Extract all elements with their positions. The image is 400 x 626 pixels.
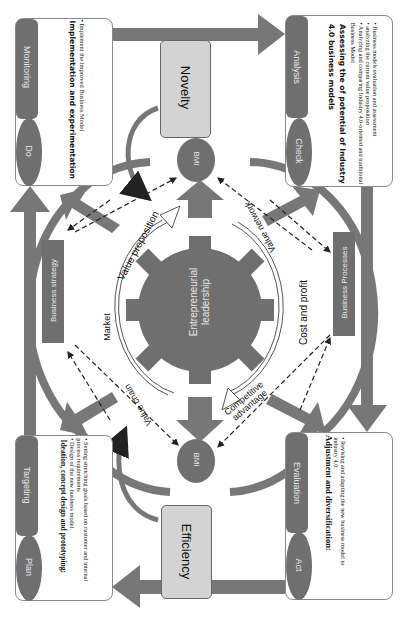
bmi-pdca-diagram: Monitoring Do Implementation and experim… — [0, 0, 400, 626]
analysis-label: Analysis — [292, 27, 302, 107]
check-bullet-1: • Business models evaluation and assessm… — [372, 22, 379, 192]
arrow-gear-to-bmi-top — [176, 180, 224, 218]
plan-bullet-2: • Design of the new business model. — [69, 438, 76, 593]
plan-label: Plan — [24, 547, 34, 587]
monitoring-label: Monitoring — [22, 27, 32, 107]
plan-title: Ideation, concept design and prototyping… — [59, 440, 68, 590]
business-strategy-label: Business strategy — [49, 241, 58, 341]
efficiency-label: Efficiency — [179, 507, 194, 597]
business-processes-label: Business Processes — [340, 233, 349, 333]
plan-bullet-1: • Setting stretching goals based on cust… — [76, 438, 90, 593]
check-bullet-3: • Analyzing and comparing Industry 4.0-o… — [351, 22, 365, 192]
do-label: Do — [24, 131, 34, 171]
novelty-label: Novelty — [178, 48, 193, 128]
bmi-bottom-label: BMI — [192, 445, 201, 475]
gear-label: Entrepreneurial leadership — [188, 252, 212, 352]
act-label: Act — [294, 545, 304, 585]
curve-arrow-novelty — [128, 108, 158, 198]
bmi-top-label: BMI — [192, 144, 201, 174]
check-label: Check — [294, 131, 304, 171]
targeting-label: Targeting — [22, 445, 32, 525]
plan-bullets: • Setting stretching goals based on cust… — [69, 438, 91, 593]
do-bullet-1: • Implement the improved Business Model — [79, 20, 86, 180]
do-title: Implementation and experimentation — [68, 21, 77, 181]
act-bullets: • Revising and adapting the new business… — [333, 437, 347, 587]
check-bullet-2: • analyzing the current value propositio… — [365, 22, 372, 192]
label-market: Market — [102, 302, 112, 352]
label-cost-and-profit: Cost and profit — [298, 268, 309, 358]
check-bullets: • Business models evaluation and assessm… — [351, 22, 380, 192]
act-bullet-1: • Revising and adapting the new business… — [333, 437, 347, 587]
evaluation-label: Evaluation — [292, 443, 302, 523]
check-title: Assessing the of potential of Industry 4… — [326, 24, 348, 184]
